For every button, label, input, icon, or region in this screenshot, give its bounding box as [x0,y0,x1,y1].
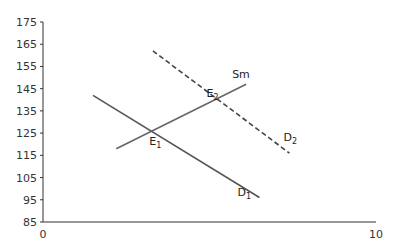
y-tick-label: 145 [16,83,37,96]
line-d1 [93,95,260,197]
label-e2: E2 [207,87,219,102]
line-sm [116,84,246,148]
axes [43,22,376,222]
equilibrium-labels: E1E2 [149,87,218,150]
y-tick-label: 175 [16,16,37,29]
y-tick-label: 85 [23,216,37,229]
y-ticks: 1751651551451351251151059585 [16,16,43,229]
x-ticks: 010 [40,228,384,241]
x-tick-label: 0 [40,228,47,241]
line-d2 [153,51,290,153]
y-tick-label: 155 [16,60,37,73]
label-d1: D1 [237,186,251,201]
label-e1: E1 [149,135,161,150]
label-sm: Sm [232,68,250,81]
label-d2: D2 [283,131,297,146]
series-lines [93,51,289,198]
y-tick-label: 125 [16,127,37,140]
y-tick-label: 105 [16,172,37,185]
y-tick-label: 95 [23,194,37,207]
y-tick-label: 135 [16,105,37,118]
supply-demand-chart: 1751651551451351251151059585 010 D1SmD2 … [0,0,397,251]
y-tick-label: 165 [16,38,37,51]
x-tick-label: 10 [369,228,383,241]
y-tick-label: 115 [16,149,37,162]
